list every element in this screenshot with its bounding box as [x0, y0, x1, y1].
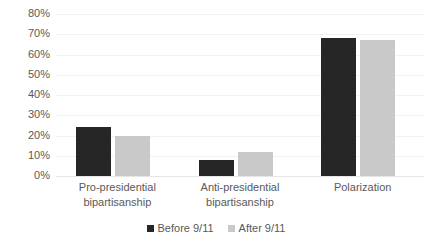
legend-swatch-icon: [147, 225, 154, 232]
bar-group: [56, 14, 179, 176]
bar-after[interactable]: [238, 152, 273, 176]
x-axis-label-line: Pro-presidential: [56, 180, 179, 195]
y-axis-tick-labels: 80%70%60%50%40%30%20%10%0%: [0, 0, 50, 190]
legend-item[interactable]: After 9/11: [228, 222, 286, 234]
y-axis-tick-30: 30%: [0, 109, 50, 120]
y-axis-tick-0: 0%: [0, 170, 50, 181]
x-axis-label-line: bipartisanship: [56, 195, 179, 210]
x-axis-label: Pro-presidentialbipartisanship: [56, 180, 179, 209]
axis-baseline: [56, 176, 424, 177]
x-axis-label-line: Polarization: [301, 180, 424, 195]
bar-group: [179, 14, 302, 176]
y-axis-tick-20: 20%: [0, 130, 50, 141]
legend-label: Before 9/11: [158, 222, 214, 234]
bar-before[interactable]: [321, 38, 356, 176]
bar-before[interactable]: [199, 160, 234, 176]
y-axis-tick-10: 10%: [0, 150, 50, 161]
bar-after[interactable]: [360, 40, 395, 176]
x-axis-label-line: Anti-presidential: [179, 180, 302, 195]
y-axis-tick-60: 60%: [0, 49, 50, 60]
plot-area: [56, 14, 424, 176]
bar-group: [301, 14, 424, 176]
y-axis-tick-80: 80%: [0, 8, 50, 19]
legend-swatch-icon: [228, 225, 235, 232]
bar-chart: 80%70%60%50%40%30%20%10%0% Pro-president…: [0, 0, 432, 242]
legend-label: After 9/11: [239, 222, 286, 234]
bar-before[interactable]: [76, 127, 111, 176]
bar-after[interactable]: [115, 136, 150, 177]
x-axis-label: Anti-presidentialbipartisanship: [179, 180, 302, 209]
y-axis-tick-40: 40%: [0, 89, 50, 100]
y-axis-tick-50: 50%: [0, 69, 50, 80]
legend-item[interactable]: Before 9/11: [147, 222, 214, 234]
chart-legend: Before 9/11After 9/11: [0, 222, 432, 234]
x-axis-label: Polarization: [301, 180, 424, 195]
y-axis-tick-70: 70%: [0, 28, 50, 39]
x-axis-category-labels: Pro-presidentialbipartisanshipAnti-presi…: [56, 180, 424, 216]
x-axis-label-line: bipartisanship: [179, 195, 302, 210]
